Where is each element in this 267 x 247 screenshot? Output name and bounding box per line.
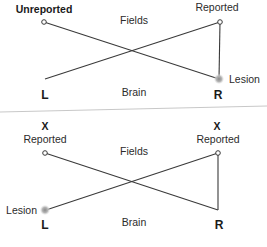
right-field-point-icon: [218, 20, 223, 25]
right-hemisphere-label: R: [215, 218, 224, 232]
brain-label: Brain: [122, 86, 147, 98]
right-hemisphere-label: R: [214, 88, 223, 102]
left-field-status-label: Unreported: [16, 3, 73, 15]
right-field-marker: X: [213, 120, 220, 132]
panel-divider: [0, 106, 267, 112]
fields-label: Fields: [120, 145, 148, 157]
right-field-point-icon: [216, 151, 221, 156]
right-field-status-label: Reported: [195, 1, 238, 13]
left-field-marker: X: [41, 120, 48, 132]
left-field-status-label: Reported: [23, 133, 66, 145]
left-field-point-icon: [42, 20, 47, 25]
lesion-spot-icon: [214, 74, 224, 84]
fields-label: Fields: [120, 14, 148, 26]
lesion-label: Lesion: [6, 204, 37, 216]
left-hemisphere-label: L: [41, 88, 48, 102]
left-hemisphere-label: L: [41, 218, 48, 232]
panel-top: Unreported Reported Fields Lesion L Brai…: [16, 1, 260, 102]
brain-label: Brain: [122, 216, 147, 228]
panel-bottom: X X Reported Reported Fields Lesion L Br…: [6, 120, 240, 232]
visual-field-diagram: Unreported Reported Fields Lesion L Brai…: [0, 0, 267, 247]
lesion-label: Lesion: [229, 73, 260, 85]
right-vertical-pathway: [219, 22, 220, 79]
right-field-status-label: Reported: [196, 133, 239, 145]
lesion-spot-icon: [40, 205, 50, 215]
left-field-point-icon: [43, 151, 48, 156]
